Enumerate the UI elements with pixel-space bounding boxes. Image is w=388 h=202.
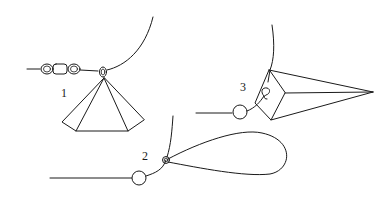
fishing-rig-diagram: 1 2 [0,0,388,202]
figure-1-pyramid-sinker-rig: 1 [27,17,153,131]
figure-2-label: 2 [142,149,148,163]
bead-icon [132,171,146,185]
eye-ring-icon [100,67,107,77]
main-line [167,116,173,157]
bead-icon [233,105,247,119]
figure-3-label: 3 [240,80,246,94]
figure-2-loop-sinker-rig: 2 [50,116,287,185]
main-line [107,17,153,70]
figure-1-label: 1 [61,86,67,100]
pyramid-sinker-icon [62,78,144,131]
teardrop-loop-sinker-icon [168,132,287,175]
figure-3-pointed-sinker-rig: 3 [196,25,373,120]
swivel-chain-icon [41,64,80,74]
pointed-sinker-icon [255,70,373,120]
connector-line [80,70,98,71]
